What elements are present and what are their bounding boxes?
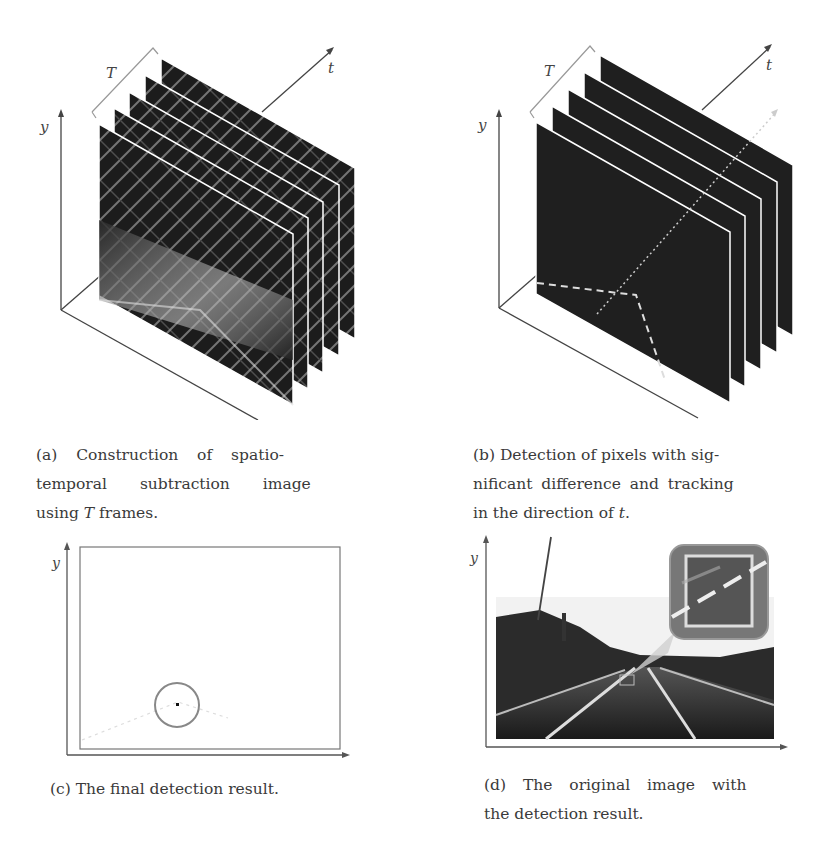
spatiotemporal-stack-a: y t T (0, 0, 420, 420)
panel-a-diagram: y t T (0, 0, 420, 420)
bracket-label: T (106, 64, 117, 82)
svg-text:x: x (770, 760, 778, 765)
caption-b: (b) Detection of pixels with sig- nifica… (473, 441, 803, 528)
svg-text:y: y (469, 550, 479, 566)
caption-a: (a) Construction of spatio- temporal sub… (36, 441, 366, 528)
detection-result-frame: y x (0, 540, 420, 760)
caption-c: (c) The final detection result. (50, 775, 380, 804)
panel-c-diagram: y x (0, 540, 420, 760)
frame-stack (536, 55, 793, 403)
panel-b-diagram: y t T (420, 0, 838, 420)
panel-d-diagram: y x (420, 535, 838, 765)
svg-text:t: t (766, 56, 773, 74)
svg-text:y: y (51, 555, 61, 571)
svg-text:y: y (477, 116, 487, 134)
original-road-image: y x (420, 535, 838, 765)
t-axis-label: t (328, 59, 335, 77)
caption-d: (d) The original image with the detectio… (484, 771, 794, 829)
svg-text:T: T (544, 62, 555, 80)
y-axis-label: y (39, 118, 49, 136)
result-frame (80, 547, 340, 749)
spatiotemporal-stack-b: y t T (420, 0, 838, 420)
t-axis (262, 50, 332, 112)
detection-point (176, 703, 179, 706)
